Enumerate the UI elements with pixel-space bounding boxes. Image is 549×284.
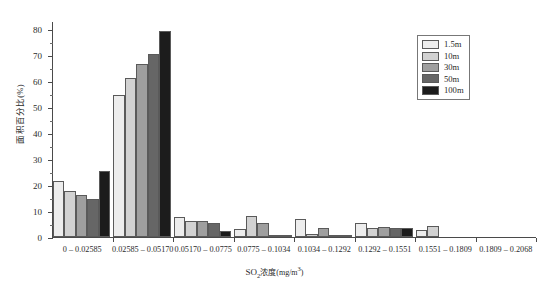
x-axis-tick-label: 0.1034 – 0.1292 <box>298 245 351 254</box>
bar <box>234 229 246 237</box>
y-axis-tick-label: 40 <box>33 129 42 139</box>
bar-group <box>235 22 296 237</box>
chart-legend: 1.5m10m30m50m100m <box>417 35 470 100</box>
x-axis-tick-label: 0.02585 – 0.05170 <box>112 245 173 254</box>
legend-swatch <box>422 63 439 72</box>
y-axis-tick: 0 <box>48 238 53 239</box>
y-axis-title: 面积百分比(%) <box>13 54 25 174</box>
bar <box>341 235 353 237</box>
bar <box>401 228 413 237</box>
x-axis-tick <box>536 238 537 242</box>
x-axis-tick-label: 0.05170 – 0.0775 <box>175 245 232 254</box>
legend-swatch <box>422 86 439 95</box>
bar <box>355 223 367 237</box>
bar <box>318 228 330 237</box>
x-axis-tick <box>415 238 416 242</box>
bar <box>53 181 65 237</box>
x-axis-tick-label: 0.0775 – 0.1034 <box>237 245 290 254</box>
y-axis-tick-label: 10 <box>33 207 42 217</box>
x-axis-tick <box>476 238 477 242</box>
y-axis-tick-label: 50 <box>33 103 42 113</box>
bar <box>148 54 160 237</box>
bar <box>197 221 209 237</box>
bar <box>280 235 292 237</box>
bar <box>136 64 148 237</box>
bar <box>329 235 341 237</box>
legend-swatch <box>422 40 439 49</box>
bar <box>185 221 197 237</box>
bar <box>76 195 88 237</box>
bar-chart-figure: 面积百分比(%) 01020304050607080 0 – 0.025850.… <box>0 0 549 284</box>
x-axis-title-suffix: ) <box>301 268 304 277</box>
bar <box>269 235 281 237</box>
legend-label: 1.5m <box>444 40 461 49</box>
bar <box>390 228 402 237</box>
y-axis-tick-label: 0 <box>38 233 43 243</box>
x-axis-tick <box>355 238 356 242</box>
bar-group <box>295 22 356 237</box>
legend-label: 10m <box>444 52 459 61</box>
x-axis-tick-label: 0 – 0.02585 <box>63 245 102 254</box>
bar <box>174 217 186 237</box>
bar-group <box>356 22 417 237</box>
bar <box>159 31 171 237</box>
legend-item[interactable]: 1.5m <box>422 39 464 50</box>
x-axis-tick-label: 0.1292 – 0.1551 <box>358 245 411 254</box>
bar <box>87 199 99 237</box>
y-axis-tick-label: 80 <box>33 25 42 35</box>
y-axis-tick-label: 30 <box>33 155 42 165</box>
bar <box>99 171 111 237</box>
legend-item[interactable]: 100m <box>422 85 464 96</box>
x-axis-tick-label: 0.1809 – 0.2068 <box>479 245 532 254</box>
x-axis-title-prefix: SO <box>245 267 257 277</box>
bar <box>208 223 220 237</box>
bar <box>427 226 439 237</box>
bar <box>246 216 258 237</box>
bar-group <box>174 22 235 237</box>
x-axis-tick <box>234 238 235 242</box>
legend-item[interactable]: 50m <box>422 73 464 84</box>
bar <box>125 78 137 237</box>
legend-label: 30m <box>444 63 459 72</box>
bar <box>416 230 428 237</box>
bar <box>295 219 307 237</box>
y-axis-tick-label: 70 <box>33 51 42 61</box>
y-axis-tick-label: 20 <box>33 181 42 191</box>
x-axis-title-middle: 浓度(mg/m <box>260 268 297 277</box>
legend-swatch <box>422 74 439 83</box>
x-axis-tick-label: 0.1551 – 0.1809 <box>419 245 472 254</box>
legend-label: 50m <box>444 75 459 84</box>
bar <box>257 223 269 237</box>
legend-swatch <box>422 52 439 61</box>
y-axis-tick-label: 60 <box>33 77 42 87</box>
legend-label: 100m <box>444 86 464 95</box>
bar <box>113 95 125 237</box>
legend-item[interactable]: 10m <box>422 50 464 61</box>
bar <box>306 234 318 237</box>
bar-group <box>114 22 175 237</box>
legend-item[interactable]: 30m <box>422 62 464 73</box>
bar <box>220 231 232 237</box>
x-axis-tick <box>173 238 174 242</box>
bar-group <box>477 22 538 237</box>
x-axis-tick-labels: 0 – 0.025850.02585 – 0.051700.05170 – 0.… <box>52 245 536 259</box>
bar <box>367 228 379 237</box>
bar <box>64 191 76 237</box>
x-axis-title: SO2浓度(mg/m3) <box>0 265 549 279</box>
bar-group <box>53 22 114 237</box>
x-axis-tick <box>113 238 114 242</box>
x-axis-tick <box>294 238 295 242</box>
bar <box>378 227 390 237</box>
